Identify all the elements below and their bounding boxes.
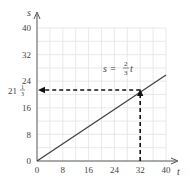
svg-text:8: 8 [27,130,32,140]
special-value-label: 21 1 3 [8,84,25,97]
svg-text:32: 32 [22,50,31,60]
x-tick-labels: 0 8 16 24 32 40 [35,165,171,175]
y-axis-label: s [27,7,31,18]
equation-label: s = 2 3 t [103,60,133,77]
svg-text:1: 1 [21,84,24,90]
svg-text:t: t [130,63,133,74]
svg-text:8: 8 [61,165,66,175]
chart: 0 8 16 24 32 40 0 8 16 24 32 40 21 1 3 s… [0,0,188,180]
svg-text:40: 40 [22,23,32,33]
svg-text:16: 16 [22,103,32,113]
svg-text:40: 40 [162,165,172,175]
grid [37,28,166,161]
svg-text:0: 0 [27,156,32,166]
svg-text:s =: s = [103,63,116,74]
dashed-guides [45,90,140,161]
svg-text:16: 16 [84,165,94,175]
arrow-left-icon [38,87,45,93]
svg-text:32: 32 [136,165,145,175]
svg-text:3: 3 [21,91,24,97]
svg-text:0: 0 [35,165,40,175]
svg-text:24: 24 [110,165,120,175]
svg-text:2: 2 [124,60,128,68]
axes [34,12,178,164]
svg-text:3: 3 [124,69,128,77]
x-axis-label: t [177,166,180,177]
svg-text:21: 21 [8,86,17,96]
